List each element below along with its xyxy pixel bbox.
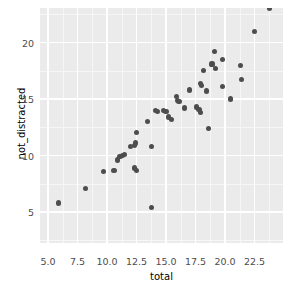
- data-point: [198, 110, 203, 115]
- gridline-major-vertical: [77, 8, 78, 243]
- data-point: [267, 8, 272, 11]
- x-axis-tick-label: 7.5: [70, 256, 85, 267]
- gridline-minor-vertical: [181, 8, 182, 243]
- gridline-minor-vertical: [210, 8, 211, 243]
- y-axis-tick-label: 5: [0, 207, 34, 218]
- gridline-major-horizontal: [40, 42, 283, 43]
- data-point: [187, 87, 192, 92]
- data-point: [134, 130, 139, 135]
- data-point: [212, 49, 217, 54]
- data-point: [155, 109, 160, 114]
- data-point: [238, 63, 243, 68]
- plot-panel: [40, 8, 283, 243]
- data-point: [56, 200, 61, 205]
- data-point: [239, 77, 244, 82]
- x-axis-tick-label: 5.0: [40, 256, 55, 267]
- gridline-major-vertical: [224, 8, 225, 243]
- data-point: [228, 96, 233, 101]
- y-axis-tick-label: 15: [0, 94, 34, 105]
- data-point: [199, 83, 204, 88]
- x-axis-tick-label: 20.0: [214, 256, 235, 267]
- gridline-major-vertical: [47, 8, 48, 243]
- gridline-major-horizontal: [40, 98, 283, 99]
- gridline-minor-vertical: [122, 8, 123, 243]
- gridline-major-vertical: [254, 8, 255, 243]
- scatter-plot: not_distracted total 5.07.510.012.515.01…: [0, 0, 290, 298]
- gridline-major-vertical: [165, 8, 166, 243]
- y-axis-tick-label: 20: [0, 37, 34, 48]
- gridline-major-vertical: [136, 8, 137, 243]
- data-point: [133, 140, 138, 145]
- data-point: [176, 99, 181, 104]
- x-axis-tick-label: 12.5: [126, 256, 147, 267]
- data-point: [101, 169, 106, 174]
- y-axis-tick-label: 10: [0, 150, 34, 161]
- gridline-minor-vertical: [240, 8, 241, 243]
- gridline-major-vertical: [195, 8, 196, 243]
- data-point: [149, 205, 154, 210]
- x-axis-tick-label: 22.5: [244, 256, 265, 267]
- x-axis-tick-label: 15.0: [155, 256, 176, 267]
- gridline-major-horizontal: [40, 155, 283, 156]
- data-point: [201, 68, 206, 73]
- gridline-major-horizontal: [40, 211, 283, 212]
- data-point: [252, 29, 257, 34]
- data-point: [182, 105, 187, 110]
- data-point: [111, 168, 116, 173]
- data-point: [163, 109, 168, 114]
- data-point: [169, 117, 174, 122]
- gridline-minor-vertical: [92, 8, 93, 243]
- data-point: [83, 186, 88, 191]
- data-point: [145, 119, 150, 124]
- gridline-major-vertical: [106, 8, 107, 243]
- data-point: [204, 88, 209, 93]
- gridline-minor-vertical: [269, 8, 270, 243]
- gridline-minor-vertical: [63, 8, 64, 243]
- data-point: [206, 126, 211, 131]
- data-point: [149, 144, 154, 149]
- x-axis-title: total: [40, 271, 283, 282]
- x-axis-tick-label: 10.0: [96, 256, 117, 267]
- x-axis-tick-label: 17.5: [185, 256, 206, 267]
- data-point: [134, 168, 139, 173]
